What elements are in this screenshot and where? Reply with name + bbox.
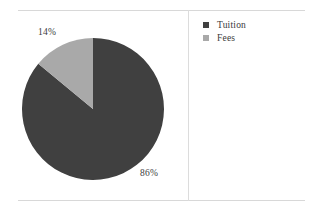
slice-label-fees: 14%: [38, 27, 56, 37]
figure-vertical-divider: [188, 10, 189, 201]
pie-graphic: [0, 10, 188, 200]
chart-legend: Tuition Fees: [203, 19, 303, 45]
figure-bottom-rule: [18, 200, 305, 201]
slice-label-tuition: 86%: [140, 168, 158, 178]
legend-item-tuition[interactable]: Tuition: [203, 19, 303, 31]
square-marker-icon: [203, 35, 209, 41]
plot-area: 14% 86%: [0, 10, 188, 200]
legend-item-label: Fees: [217, 32, 235, 44]
legend-item-fees[interactable]: Fees: [203, 32, 303, 44]
square-marker-icon: [203, 22, 209, 28]
pie-chart-figure: 14% 86% Tuition Fees: [0, 0, 320, 212]
legend-item-label: Tuition: [217, 19, 246, 31]
